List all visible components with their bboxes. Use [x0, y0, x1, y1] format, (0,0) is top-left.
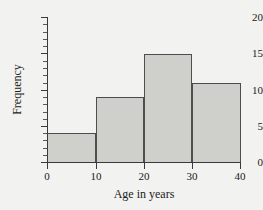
y-axis-line — [47, 17, 48, 163]
y-major-tick — [41, 90, 47, 91]
x-major-tick — [240, 163, 241, 169]
y-minor-tick — [43, 24, 47, 25]
y-minor-tick — [43, 104, 47, 105]
y-minor-tick — [43, 140, 47, 141]
x-tick-label-30: 30 — [177, 171, 207, 182]
y-major-tick — [41, 126, 47, 127]
plot-area: 0 5 10 15 20 0 10 20 30 40 Age in years … — [0, 0, 263, 210]
x-tick-label-20: 20 — [129, 171, 159, 182]
y-tick-label-10: 10 — [225, 85, 263, 96]
y-minor-tick — [43, 97, 47, 98]
y-minor-tick — [43, 61, 47, 62]
bar-20-30 — [144, 54, 192, 163]
x-axis-title: Age in years — [47, 187, 241, 202]
y-tick-label-5: 5 — [225, 121, 263, 132]
x-major-tick — [96, 163, 97, 169]
x-major-tick — [47, 163, 48, 169]
y-minor-tick — [43, 68, 47, 69]
y-minor-tick — [43, 83, 47, 84]
y-minor-tick — [43, 46, 47, 47]
y-tick-label-15: 15 — [225, 48, 263, 59]
x-major-tick — [144, 163, 145, 169]
y-tick-label-0: 0 — [225, 157, 263, 168]
y-minor-tick — [43, 32, 47, 33]
bar-10-20 — [96, 97, 144, 163]
y-minor-tick — [43, 39, 47, 40]
y-minor-tick — [43, 119, 47, 120]
y-minor-tick — [43, 75, 47, 76]
y-axis-title: Frequency — [10, 30, 25, 150]
y-minor-tick — [43, 133, 47, 134]
y-minor-tick — [43, 112, 47, 113]
y-minor-tick — [43, 155, 47, 156]
y-tick-label-20: 20 — [225, 12, 263, 23]
y-major-tick — [41, 53, 47, 54]
x-tick-label-40: 40 — [225, 171, 255, 182]
x-tick-label-10: 10 — [81, 171, 111, 182]
y-major-tick — [41, 17, 47, 18]
x-major-tick — [192, 163, 193, 169]
bar-0-10 — [47, 133, 96, 163]
y-minor-tick — [43, 148, 47, 149]
x-tick-label-0: 0 — [32, 171, 62, 182]
histogram-figure: 0 5 10 15 20 0 10 20 30 40 Age in years … — [0, 0, 263, 210]
